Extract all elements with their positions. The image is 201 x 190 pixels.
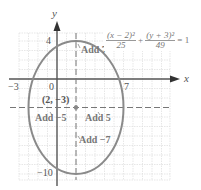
center-point — [74, 105, 78, 109]
annotation-add-up: Add 7 — [81, 45, 107, 55]
grid — [19, 33, 170, 180]
graph-canvas — [0, 0, 201, 190]
x-tick-7: 7 — [124, 82, 129, 92]
center-label: (2, −3) — [42, 95, 69, 105]
add-up-arrow-icon — [78, 44, 80, 48]
x-axis-arrow-icon — [170, 76, 180, 83]
y-tick-4: 4 — [46, 36, 51, 46]
y-tick-neg10: −10 — [37, 168, 53, 178]
equation-plus: + — [138, 35, 143, 45]
y-axis-arrow-icon — [54, 21, 61, 31]
equation-term2: (y + 3)² 49 — [145, 31, 175, 50]
x-axis-label: x — [184, 73, 189, 84]
x-tick-neg3: −3 — [8, 82, 19, 92]
annotation-add-down: Add −7 — [79, 135, 111, 145]
ellipse-equation: (x − 2)² 25 + (y + 3)² 49 = 1 — [104, 30, 191, 51]
equation-term1: (x − 2)² 25 — [106, 31, 136, 50]
origin-label: 0 — [49, 82, 54, 92]
y-axis-label: y — [52, 8, 57, 19]
annotation-add-left: Add −5 — [35, 113, 67, 123]
equation-rhs: = 1 — [177, 35, 189, 45]
annotation-add-right: Add 5 — [85, 113, 111, 123]
